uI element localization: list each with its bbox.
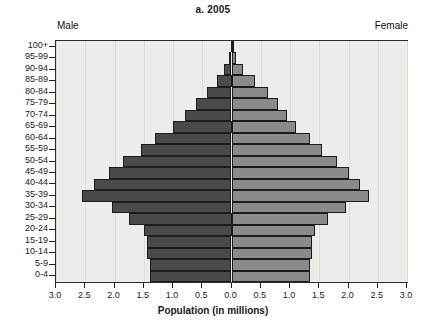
male-bar <box>94 179 231 190</box>
female-axis-label: Female <box>375 20 408 31</box>
x-axis-tick <box>55 283 56 288</box>
female-bar <box>232 225 315 236</box>
x-axis-tick-label: 2.0 <box>333 290 363 300</box>
y-axis-tick-label: 25-29 <box>25 213 48 222</box>
male-bar <box>155 133 231 144</box>
y-axis-tick <box>49 218 55 219</box>
y-axis-tick <box>49 46 55 47</box>
y-axis-tick <box>49 183 55 184</box>
male-bar <box>82 190 231 201</box>
y-axis-tick-label: 45-49 <box>25 167 48 176</box>
gridline <box>407 41 408 282</box>
y-axis-tick <box>49 229 55 230</box>
male-bar <box>112 202 232 213</box>
male-bar <box>207 87 232 98</box>
y-axis-tick-label: 85-89 <box>25 75 48 84</box>
y-axis-tick-label: 15-19 <box>25 236 48 245</box>
y-axis-tick-label: 100+ <box>28 41 48 50</box>
female-bar <box>232 248 313 259</box>
female-bar <box>232 190 369 201</box>
y-axis-tick-label: 35-39 <box>25 190 48 199</box>
male-bar <box>185 110 232 121</box>
y-axis-tick <box>49 92 55 93</box>
y-axis-tick <box>49 275 55 276</box>
female-bar <box>232 271 311 282</box>
x-axis-tick-label: 0.5 <box>245 290 275 300</box>
y-axis-tick-label: 0-4 <box>35 270 48 279</box>
male-bar <box>129 213 231 224</box>
population-pyramid-chart: a. 2005 Male Female 0-45-910-1415-1920-2… <box>0 0 426 326</box>
y-axis-tick-label: 70-74 <box>25 110 48 119</box>
y-axis-tick-label: 65-69 <box>25 121 48 130</box>
male-bar <box>109 167 232 178</box>
y-axis-tick-label: 10-14 <box>25 247 48 256</box>
male-axis-label: Male <box>57 20 79 31</box>
female-bar <box>232 144 323 155</box>
x-axis-tick <box>406 283 407 288</box>
female-bar <box>232 202 346 213</box>
y-axis-tick <box>49 149 55 150</box>
x-axis-tick-label: 1.5 <box>128 290 158 300</box>
chart-title: a. 2005 <box>0 4 426 15</box>
female-bar <box>232 156 337 167</box>
x-axis-tick-label: 1.0 <box>157 290 187 300</box>
x-axis-tick <box>201 283 202 288</box>
y-axis-tick-label: 20-24 <box>25 224 48 233</box>
y-axis-tick <box>49 103 55 104</box>
y-axis-tick-label: 75-79 <box>25 98 48 107</box>
x-axis-tick <box>172 283 173 288</box>
y-axis-tick-label: 60-64 <box>25 133 48 142</box>
y-axis-tick <box>49 195 55 196</box>
y-axis-tick <box>49 57 55 58</box>
y-axis-tick-label: 5-9 <box>35 259 48 268</box>
male-bar <box>144 225 232 236</box>
x-axis-tick <box>143 283 144 288</box>
x-axis-tick-label: 2.5 <box>362 290 392 300</box>
female-bar <box>232 64 244 75</box>
y-axis-tick-label: 40-44 <box>25 178 48 187</box>
x-axis-tick <box>84 283 85 288</box>
y-axis-tick <box>49 115 55 116</box>
y-axis-tick-label: 95-99 <box>25 52 48 61</box>
x-axis-title: Population (in millions) <box>0 305 426 316</box>
male-bar <box>150 259 232 270</box>
x-axis-tick <box>260 283 261 288</box>
x-axis-tick-label: 0.5 <box>186 290 216 300</box>
x-axis-tick-label: 3.0 <box>40 290 70 300</box>
y-axis-tick <box>49 138 55 139</box>
female-bar <box>232 167 349 178</box>
y-axis-tick <box>49 126 55 127</box>
male-bar <box>123 156 231 167</box>
x-axis-tick <box>377 283 378 288</box>
y-axis-tick <box>49 264 55 265</box>
x-axis-tick-label: 2.5 <box>69 290 99 300</box>
y-axis-tick <box>49 206 55 207</box>
x-axis-tick <box>289 283 290 288</box>
x-axis-tick-label: 2.0 <box>99 290 129 300</box>
y-axis-tick <box>49 69 55 70</box>
y-axis-tick <box>49 241 55 242</box>
male-bar <box>217 75 232 86</box>
x-axis-tick-label: 3.0 <box>391 290 421 300</box>
plot-area <box>55 40 408 283</box>
female-bar <box>232 87 268 98</box>
y-axis-tick-label: 50-54 <box>25 156 48 165</box>
x-axis-tick <box>114 283 115 288</box>
x-axis-tick-label: 1.5 <box>303 290 333 300</box>
y-axis-tick-label: 80-84 <box>25 87 48 96</box>
male-bar <box>173 121 232 132</box>
male-bar <box>147 236 232 247</box>
female-bar <box>232 259 311 270</box>
y-axis-tick-label: 30-34 <box>25 201 48 210</box>
x-axis-tick <box>318 283 319 288</box>
y-axis-tick <box>49 161 55 162</box>
y-axis-tick-label: 55-59 <box>25 144 48 153</box>
male-bar <box>224 64 231 75</box>
y-axis-tick-label: 90-94 <box>25 64 48 73</box>
female-bar <box>232 121 296 132</box>
female-bar <box>232 75 255 86</box>
male-bar <box>141 144 232 155</box>
x-axis-tick-label: 0.0 <box>216 290 246 300</box>
center-axis-line <box>232 41 233 282</box>
x-axis-tick <box>231 283 232 288</box>
